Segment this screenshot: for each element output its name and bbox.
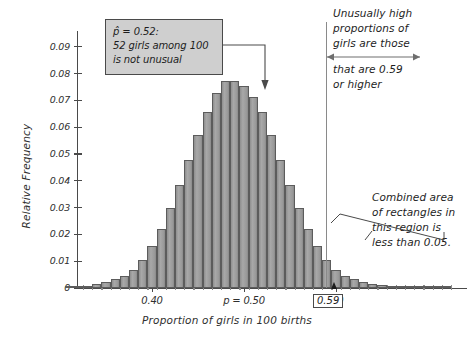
axis-marker-arrow-059 — [331, 282, 337, 289]
figure-canvas: 00.010.020.030.040.050.060.070.080.09 0.… — [0, 0, 475, 338]
callout-arrow-head — [261, 80, 268, 90]
range-arrow-head-left — [327, 54, 334, 61]
area-leader-tick — [365, 231, 372, 240]
annotation-connectors — [0, 0, 475, 338]
range-arrow-head-right — [413, 54, 420, 61]
area-leader-line — [331, 214, 444, 240]
callout-connector-line — [223, 45, 265, 82]
